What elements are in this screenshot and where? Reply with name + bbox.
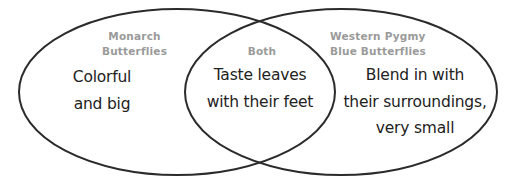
right-set-title-line-2: Blue Butterflies bbox=[330, 44, 426, 59]
left-set-text-line-2: and big bbox=[62, 91, 142, 118]
intersection-text: Taste leaves with their feet bbox=[200, 62, 320, 115]
right-set-text: Blend in with their surroundings, very s… bbox=[334, 62, 496, 142]
intersection-title-line-1: Both bbox=[232, 44, 292, 59]
left-set-text-line-1: Colorful bbox=[62, 64, 142, 91]
intersection-text-line-2: with their feet bbox=[200, 89, 320, 116]
right-set-title-line-1: Western Pygmy bbox=[330, 29, 426, 44]
right-set-text-line-2: their surroundings, bbox=[334, 89, 496, 116]
left-set-title-line-2: Butterflies bbox=[101, 44, 168, 59]
left-set-title: Monarch Butterflies bbox=[101, 29, 168, 59]
right-set-text-line-1: Blend in with bbox=[334, 62, 496, 89]
right-set-title: Western Pygmy Blue Butterflies bbox=[330, 29, 426, 59]
left-set-text: Colorful and big bbox=[62, 64, 142, 117]
right-set-text-line-3: very small bbox=[334, 115, 496, 142]
intersection-text-line-1: Taste leaves bbox=[200, 62, 320, 89]
intersection-title: Both bbox=[232, 44, 292, 59]
left-set-title-line-1: Monarch bbox=[101, 29, 168, 44]
